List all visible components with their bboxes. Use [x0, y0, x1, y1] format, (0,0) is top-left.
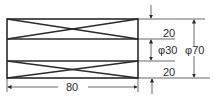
top-thickness-label: 20	[163, 27, 175, 39]
technical-drawing: 20 φ30 φ70 20 80	[0, 0, 213, 104]
length-label: 80	[66, 81, 78, 93]
inner-diameter-label: φ30	[158, 44, 177, 56]
section-cross-marks	[7, 19, 138, 78]
outer-diameter-label: φ70	[185, 44, 204, 56]
bottom-thickness-label: 20	[163, 66, 175, 78]
extension-lines	[7, 19, 210, 92]
